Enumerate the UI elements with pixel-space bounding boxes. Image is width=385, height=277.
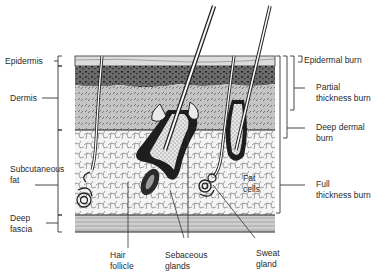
label-subcutaneous-line1: Subcutaneous [10, 164, 64, 175]
label-sweat-line1: Sweat [256, 248, 280, 259]
deep-fascia-layer [75, 215, 275, 232]
label-sweat-gland: Sweat gland [256, 248, 280, 269]
dark-dermis-layer [75, 66, 275, 87]
label-deep-dermal-line2: burn [316, 133, 365, 144]
left-brackets [35, 56, 62, 232]
label-sweat-line2: gland [256, 259, 280, 270]
label-subcutaneous-line2: fat [10, 175, 64, 186]
label-sebaceous-line2: glands [165, 261, 208, 272]
right-brackets [276, 56, 305, 213]
label-sebaceous-glands: Sebaceous glands [165, 250, 208, 271]
label-deep-dermal-burn: Deep dermal burn [316, 122, 365, 143]
label-fat-line2: cells [243, 184, 260, 195]
label-full-thickness-burn: Full thickness burn [316, 179, 371, 200]
label-partial-thickness-burn: Partial thickness burn [316, 82, 371, 103]
label-deep-fascia-line1: Deep [10, 213, 32, 224]
label-deep-fascia-line2: fascia [10, 224, 32, 235]
label-subcutaneous-fat: Subcutaneous fat [10, 164, 64, 185]
label-fat-cells: Fat cells [243, 173, 260, 194]
label-deep-dermal-line1: Deep dermal [316, 122, 365, 133]
label-epidermis: Epidermis [5, 56, 43, 67]
label-hair-line2: follicle [110, 261, 134, 272]
label-full-line1: Full [316, 179, 371, 190]
label-deep-fascia: Deep fascia [10, 213, 32, 234]
label-partial-line2: thickness burn [316, 93, 371, 104]
label-full-line2: thickness burn [316, 190, 371, 201]
label-epidermal-burn: Epidermal burn [304, 55, 362, 66]
label-fat-line1: Fat [243, 173, 260, 184]
label-hair-line1: Hair [110, 250, 134, 261]
label-sebaceous-line1: Sebaceous [165, 250, 208, 261]
label-partial-line1: Partial [316, 82, 371, 93]
label-hair-follicle: Hair follicle [110, 250, 134, 271]
label-dermis: Dermis [10, 93, 37, 104]
